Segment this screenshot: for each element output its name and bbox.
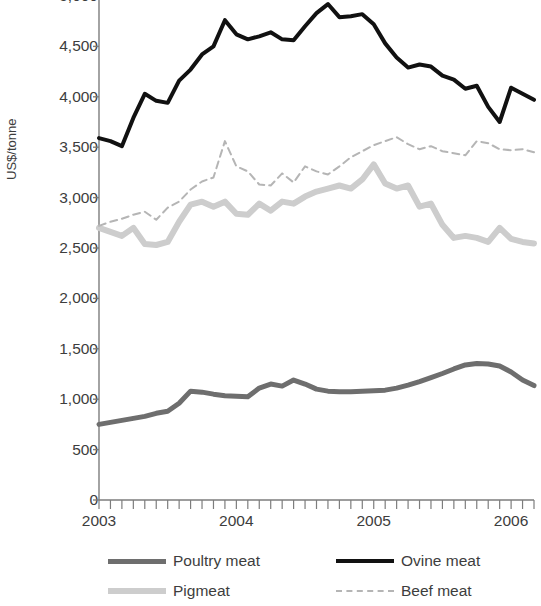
series-line-pigmeat <box>99 164 534 245</box>
legend-swatch-ovine-meat-icon <box>336 559 394 563</box>
legend-item-pigmeat[interactable]: Pigmeat <box>108 582 230 600</box>
series-line-ovine-meat <box>99 4 534 146</box>
chart-container: US$/tonne 05001,0001,5002,0002,5003,0003… <box>0 0 541 606</box>
legend-item-ovine-meat[interactable]: Ovine meat <box>336 552 480 570</box>
legend-label: Pigmeat <box>173 582 230 600</box>
legend-swatch-pigmeat-icon <box>108 588 166 594</box>
x-tick-label: 2005 <box>356 512 390 530</box>
x-tick-label: 2003 <box>82 512 116 530</box>
x-tick-label: 2006 <box>494 512 528 530</box>
legend-label: Poultry meat <box>173 552 260 570</box>
chart-legend: Poultry meatOvine meatPigmeatBeef meat <box>108 552 538 606</box>
series-line-beef-meat <box>99 137 534 226</box>
legend-swatch-beef-meat-icon <box>336 590 394 592</box>
legend-item-poultry-meat[interactable]: Poultry meat <box>108 552 260 570</box>
legend-label: Ovine meat <box>401 552 480 570</box>
legend-label: Beef meat <box>401 582 472 600</box>
legend-swatch-poultry-meat-icon <box>108 559 166 564</box>
legend-item-beef-meat[interactable]: Beef meat <box>336 582 472 600</box>
series-line-poultry-meat <box>99 363 534 424</box>
x-tick-label: 2004 <box>219 512 253 530</box>
